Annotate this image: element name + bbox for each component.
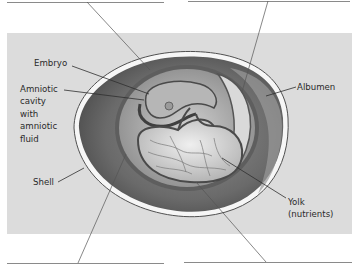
label-embryo: Embryo [34,57,67,69]
label-yolk: Yolk (nutrients) [288,196,333,221]
label-shell: Shell [33,176,54,188]
label-albumen: Albumen [297,81,335,93]
leader-blank-top-left [87,2,150,70]
label-amniotic-cavity: Amniotic cavity with amniotic fluid [20,83,58,145]
leader-shell [58,168,84,182]
